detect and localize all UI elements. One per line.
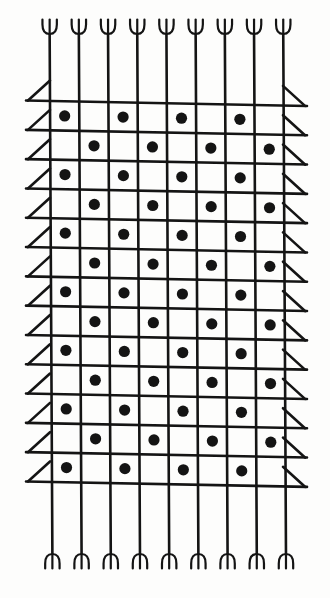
- lattice-dot: [176, 171, 187, 182]
- lattice-dot: [119, 346, 130, 357]
- lattice-diagram-svg: [0, 0, 330, 598]
- lattice-dot: [59, 169, 70, 180]
- lattice-dot: [88, 140, 99, 151]
- lattice-dot: [265, 437, 276, 448]
- lattice-dot: [236, 348, 247, 359]
- lattice-dot: [148, 317, 159, 328]
- lattice-dot: [118, 287, 129, 298]
- lattice-dot: [206, 201, 217, 212]
- lattice-dot: [60, 228, 71, 239]
- lattice-dot: [89, 316, 100, 327]
- lattice-dot: [264, 261, 275, 272]
- lattice-dot: [235, 231, 246, 242]
- lattice-dot: [205, 142, 216, 153]
- lattice-dot: [177, 230, 188, 241]
- lattice-dot: [177, 347, 188, 358]
- lattice-dot: [90, 375, 101, 386]
- lattice-dot: [265, 378, 276, 389]
- lattice-dot: [177, 288, 188, 299]
- lattice-dot: [61, 462, 72, 473]
- lattice-dot: [235, 290, 246, 301]
- lattice-dot: [89, 257, 100, 268]
- lattice-dot: [236, 407, 247, 418]
- lattice-dot: [236, 465, 247, 476]
- lattice-dot: [59, 110, 70, 121]
- bottom-trident-terminals: [45, 554, 293, 569]
- lattice-dot: [264, 144, 275, 155]
- lattice-dot: [148, 376, 159, 387]
- lattice-dot: [235, 172, 246, 183]
- lattice-dot: [90, 433, 101, 444]
- lattice-dot: [264, 202, 275, 213]
- lattice-dot: [117, 111, 128, 122]
- lattice-dot: [119, 463, 130, 474]
- lattice-dot: [60, 345, 71, 356]
- lattice-dot: [60, 286, 71, 297]
- lattice-dot: [178, 464, 189, 475]
- lattice-dot: [147, 200, 158, 211]
- lattice-dot: [177, 406, 188, 417]
- lattice-dot: [206, 318, 217, 329]
- lattice-dot: [148, 434, 159, 445]
- lattice-dot: [207, 435, 218, 446]
- left-arrow-terminals: [28, 81, 50, 482]
- lattice-dot: [61, 403, 72, 414]
- lattice-dot: [89, 199, 100, 210]
- lattice-dot: [206, 260, 217, 271]
- lattice-dot: [234, 114, 245, 125]
- lattice-dot: [118, 170, 129, 181]
- lattice-dot: [147, 259, 158, 270]
- top-trident-terminals: [42, 20, 290, 35]
- lattice-diagram-canvas: Weaving Draft Lattice Diagram: [0, 0, 330, 598]
- lattice-dot: [265, 319, 276, 330]
- lattice-dot: [118, 229, 129, 240]
- vertical-warp-lines: [50, 34, 286, 554]
- lattice-dot: [206, 377, 217, 388]
- lattice-dot: [176, 113, 187, 124]
- lattice-dot: [119, 404, 130, 415]
- lattice-dot: [147, 141, 158, 152]
